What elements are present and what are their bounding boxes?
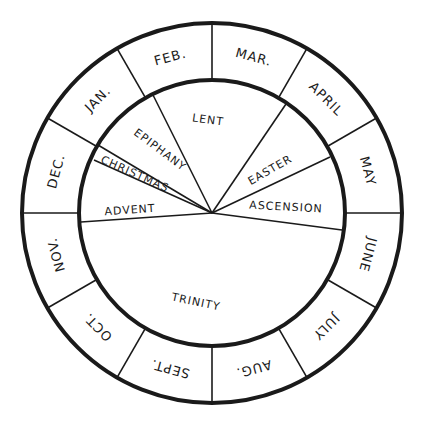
month-divider-line	[279, 328, 308, 377]
month-divider-line	[327, 280, 376, 309]
month-label-mar: MAR.	[234, 45, 273, 69]
season-label-advent: ADVENT	[104, 202, 156, 219]
season-label-christmas: CHRISTMAS	[99, 153, 171, 195]
month-divider-line	[47, 118, 96, 147]
month-label-dec: DEC.	[44, 152, 68, 190]
season-label-ascension: ASCENSION	[249, 199, 323, 216]
month-label-april: APRIL	[306, 79, 346, 119]
liturgical-year-wheel: MAR.APRILMAYJUNEJULYAUG.SEPT.OCT.NOV.DEC…	[0, 0, 421, 427]
season-label-easter: EASTER	[246, 152, 295, 188]
month-label-july: JULY	[310, 310, 343, 343]
month-label-nov: NOV.	[44, 236, 68, 274]
month-label-june: JUNE	[356, 235, 380, 274]
season-label-lent: LENT	[191, 111, 225, 128]
month-label-aug: AUG.	[234, 357, 273, 381]
season-label-trinity: TRINITY	[169, 290, 221, 313]
month-label-sept: SEPT.	[149, 357, 191, 382]
month-divider-line	[117, 48, 146, 97]
month-divider-line	[117, 328, 146, 377]
month-label-jan: JAN.	[81, 83, 114, 116]
month-divider-line	[327, 118, 376, 147]
month-label-feb: FEB.	[152, 46, 188, 69]
month-divider-line	[279, 48, 308, 97]
season-divider-line	[212, 213, 342, 230]
month-label-may: MAY	[357, 155, 379, 188]
month-divider-line	[47, 280, 96, 309]
month-label-oct: OCT.	[81, 310, 116, 345]
